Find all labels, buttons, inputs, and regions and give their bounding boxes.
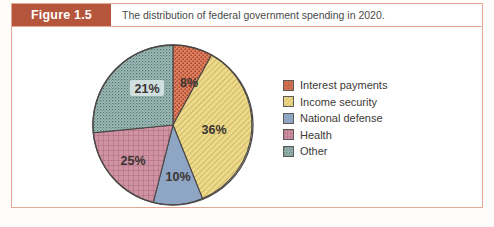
legend-item-other[interactable]: Other	[283, 144, 387, 158]
figure-container: Figure 1.5 The distribution of federal g…	[11, 3, 483, 208]
legend-swatch-national-defense	[283, 113, 294, 124]
pie-label-national-defense: 10%	[165, 170, 190, 184]
legend-label-health: Health	[300, 129, 332, 141]
pie-label-health: 25%	[120, 154, 145, 168]
figure-number-badge: Figure 1.5	[12, 4, 111, 26]
legend-label-national-defense: National defense	[300, 112, 383, 124]
chart-body: 8% 36% 10% 25% 21% Interest payments Inc…	[12, 27, 482, 207]
legend-label-interest-payments: Interest payments	[300, 79, 387, 91]
legend-swatch-income-security	[283, 96, 294, 107]
legend-label-other: Other	[300, 145, 328, 157]
legend-item-income-security[interactable]: Income security	[283, 95, 387, 109]
legend-item-health[interactable]: Health	[283, 128, 387, 142]
chart-legend: Interest payments Income security Nation…	[283, 78, 387, 158]
legend-swatch-interest-payments	[283, 80, 294, 91]
pie-label-interest-payments: 8%	[180, 76, 198, 90]
legend-swatch-other	[283, 146, 294, 157]
pie-chart-svg: 8% 36% 10% 25% 21%	[88, 40, 258, 210]
legend-item-interest-payments[interactable]: Interest payments	[283, 78, 387, 92]
legend-item-national-defense[interactable]: National defense	[283, 111, 387, 125]
pie-label-other: 21%	[134, 82, 159, 96]
figure-header: Figure 1.5 The distribution of federal g…	[12, 4, 482, 27]
pie-chart: 8% 36% 10% 25% 21%	[88, 40, 258, 210]
pie-label-income-security: 36%	[201, 123, 226, 137]
figure-caption: The distribution of federal government s…	[122, 4, 385, 26]
legend-label-income-security: Income security	[300, 96, 377, 108]
legend-swatch-health	[283, 129, 294, 140]
